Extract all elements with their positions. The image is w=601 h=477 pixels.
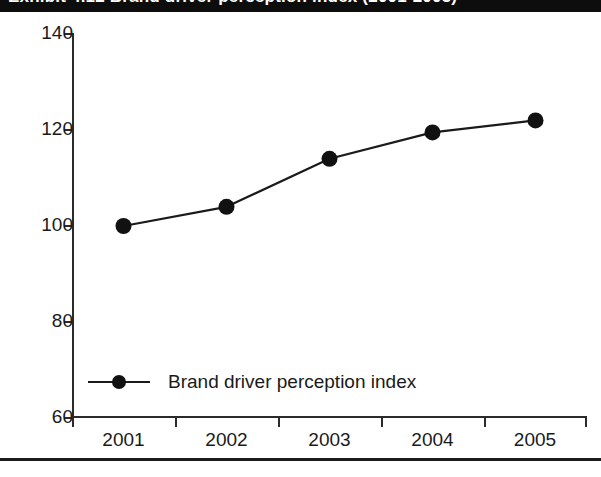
data-point-2001	[116, 218, 132, 234]
data-point-2002	[219, 199, 235, 215]
legend: Brand driver perception index	[88, 369, 416, 395]
legend-dot-icon	[112, 375, 126, 389]
exhibit-title-text: Exhibit 4.12 Brand driver perception ind…	[8, 0, 457, 7]
legend-label: Brand driver perception index	[168, 371, 416, 393]
chart-figure: Exhibit 4.12 Brand driver perception ind…	[0, 0, 601, 477]
exhibit-title-bar: Exhibit 4.12 Brand driver perception ind…	[0, 0, 601, 12]
data-point-2004	[425, 124, 441, 140]
legend-marker-icon	[88, 375, 150, 389]
plot-area: 140 120 100 80 60 2001 2002 2003 2004 20…	[0, 12, 601, 457]
series-line	[124, 120, 536, 226]
data-point-2003	[322, 151, 338, 167]
bottom-divider-rule	[0, 458, 601, 461]
data-point-2005	[528, 112, 544, 128]
